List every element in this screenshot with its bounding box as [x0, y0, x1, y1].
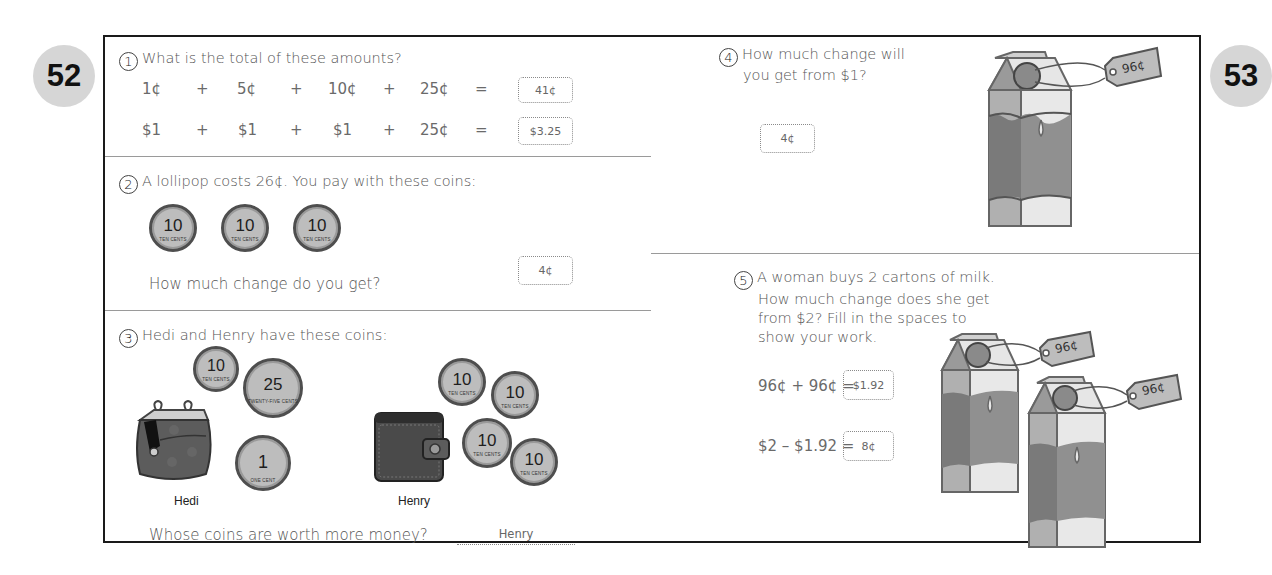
q2-question: How much change do you get? — [149, 276, 380, 293]
q4-prompt-line1: How much change will — [742, 46, 905, 62]
page-number-left-text: 52 — [47, 58, 81, 94]
q2-prompt: 2A lollipop costs 26¢. You pay with thes… — [119, 173, 476, 194]
term: $1 — [333, 121, 352, 139]
q1-number: 1 — [119, 52, 138, 71]
coin-10-cents: 10 TEN CENTS — [438, 358, 486, 406]
q3-prompt-text: Hedi and Henry have these coins: — [142, 327, 387, 343]
coin-value: 1 — [238, 452, 288, 473]
coin-10-cents: 10 TEN CENTS — [221, 204, 269, 252]
coin-10-cents: 10 TEN CENTS — [293, 204, 341, 252]
operator: = — [475, 80, 488, 98]
q1-answer-1[interactable]: 41¢ — [518, 77, 573, 103]
operator: + — [196, 80, 209, 98]
coin-value: 10 — [196, 357, 236, 375]
coin-value: 10 — [494, 383, 536, 403]
operator: + — [383, 121, 396, 139]
term: 10¢ — [328, 80, 357, 98]
coin-caption: TEN CENTS — [196, 377, 236, 382]
hedi-label: Hedi — [174, 494, 199, 508]
coin-caption: TEN CENTS — [494, 404, 536, 409]
q4-prompt: 4How much change will you get from $1? — [719, 46, 905, 84]
q2-prompt-text: A lollipop costs 26¢. You pay with these… — [142, 173, 476, 189]
q3-prompt: 3Hedi and Henry have these coins: — [119, 327, 387, 348]
coin-caption: TWENTY-FIVE CENTS — [246, 399, 300, 404]
coin-10-cents: 10 TEN CENTS — [149, 204, 197, 252]
term: $1 — [238, 121, 257, 139]
q3-number: 3 — [119, 329, 138, 348]
page-number-right-text: 53 — [1224, 58, 1258, 94]
operator: + — [290, 80, 303, 98]
term: 1¢ — [142, 80, 161, 98]
divider-q2-q3 — [105, 310, 651, 311]
q2-answer[interactable]: 4¢ — [518, 256, 573, 285]
q5-prompt-line: A woman buys 2 cartons of milk. — [757, 269, 995, 285]
operator: = — [475, 121, 488, 139]
coin-value: 10 — [296, 216, 338, 236]
term: 5¢ — [237, 80, 256, 98]
coin-10-cents: 10 TEN CENTS — [491, 371, 539, 419]
q5-number: 5 — [734, 271, 753, 290]
coin-caption: ONE CENT — [238, 478, 288, 483]
q5-prompt-line: How much change does she get — [734, 291, 990, 307]
q1-answer-2[interactable]: $3.25 — [518, 117, 573, 145]
operator: + — [196, 121, 209, 139]
milk-carton-icon — [1027, 373, 1197, 553]
q5-prompt-line: show your work. — [734, 329, 877, 345]
coin-25-cents: 25 TWENTY-FIVE CENTS — [243, 358, 303, 418]
q3-question: Whose coins are worth more money? — [149, 527, 428, 544]
q1-prompt: 1What is the total of these amounts? — [119, 50, 402, 71]
q2-number: 2 — [119, 175, 138, 194]
q4-number: 4 — [719, 48, 738, 67]
operator: + — [383, 80, 396, 98]
coin-10-cents: 10 TEN CENTS — [193, 346, 239, 392]
coin-value: 25 — [246, 375, 300, 395]
coin-caption: TEN CENTS — [224, 237, 266, 242]
henry-label: Henry — [398, 494, 430, 508]
q5-eq2-answer[interactable]: 8¢ — [843, 431, 894, 461]
q3-answer[interactable]: Henry — [457, 527, 575, 545]
divider-q4-q5 — [651, 253, 1199, 254]
q5-eq2-expression: $2 – $1.92 = — [758, 437, 854, 455]
page-number-right: 53 — [1210, 45, 1272, 107]
operator: + — [290, 121, 303, 139]
coin-10-cents: 10 TEN CENTS — [510, 438, 558, 486]
coin-caption: TEN CENTS — [441, 391, 483, 396]
coin-caption: TEN CENTS — [152, 237, 194, 242]
purse-icon — [134, 400, 214, 484]
q5-prompt-line: from $2? Fill in the spaces to — [734, 310, 967, 326]
coin-10-cents: 10 TEN CENTS — [462, 418, 512, 468]
wallet-icon — [373, 411, 451, 483]
q4-prompt-line2: you get from $1? — [719, 67, 867, 83]
coin-value: 10 — [441, 370, 483, 390]
q5-eq1-answer[interactable]: $1.92 — [843, 370, 894, 400]
milk-carton-icon — [985, 40, 1175, 232]
coin-value: 10 — [224, 216, 266, 236]
page-number-left: 52 — [33, 45, 95, 107]
coin-caption: TEN CENTS — [513, 471, 555, 476]
coin-value: 10 — [465, 431, 509, 451]
coin-1-cent: 1 ONE CENT — [235, 435, 291, 491]
coin-value: 10 — [152, 216, 194, 236]
term: 25¢ — [420, 80, 449, 98]
term: 25¢ — [420, 121, 449, 139]
q1-prompt-text: What is the total of these amounts? — [142, 50, 402, 66]
coin-caption: TEN CENTS — [465, 452, 509, 457]
divider-q1-q2 — [105, 156, 651, 157]
coin-value: 10 — [513, 450, 555, 470]
q4-answer[interactable]: 4¢ — [760, 124, 815, 153]
term: $1 — [142, 121, 161, 139]
coin-caption: TEN CENTS — [296, 237, 338, 242]
q5-eq1-expression: 96¢ + 96¢ = — [758, 377, 855, 395]
